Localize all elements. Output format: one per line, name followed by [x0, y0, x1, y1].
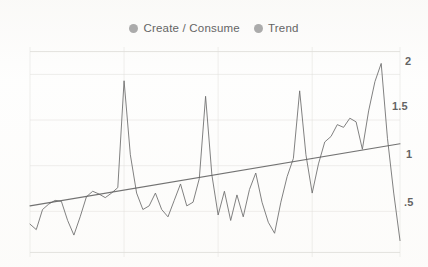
chart-series-layer [30, 63, 400, 240]
y-axis-tick-2: 2 [405, 55, 411, 67]
y-axis-tick-0-5: .5 [404, 196, 414, 208]
chart-plot-area [0, 0, 428, 267]
data-series-line [30, 63, 400, 240]
chart-figure: Create / Consume Trend 2 1.5 1 .5 [0, 0, 428, 267]
y-axis-tick-1: 1 [406, 148, 412, 160]
chart-gridlines [30, 47, 400, 257]
y-axis-tick-1-5: 1.5 [392, 100, 408, 112]
